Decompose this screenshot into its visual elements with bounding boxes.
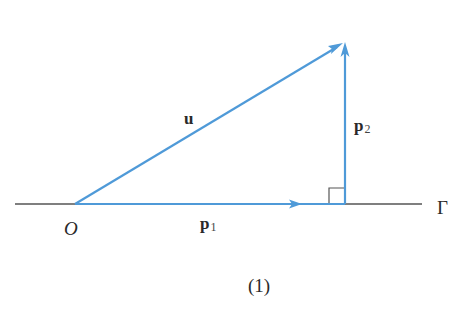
vector-u bbox=[75, 47, 337, 204]
label-gamma: Γ bbox=[437, 198, 448, 217]
label-p1: p1 bbox=[200, 215, 216, 233]
figure-caption: (1) bbox=[248, 276, 270, 295]
right-angle-marker bbox=[329, 188, 345, 204]
diagram-canvas: u p2 p1 O Γ (1) bbox=[0, 0, 465, 327]
label-p2: p2 bbox=[354, 117, 370, 135]
label-origin: O bbox=[64, 219, 78, 238]
diagram-svg bbox=[0, 0, 465, 327]
vector-u-arrowhead-icon bbox=[328, 43, 343, 54]
label-u: u bbox=[184, 110, 193, 127]
